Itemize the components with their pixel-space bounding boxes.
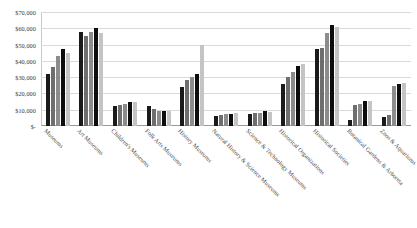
y-axis-tick-label: $40,000 xyxy=(15,57,36,64)
bar xyxy=(291,72,295,126)
bar xyxy=(248,114,252,126)
bar xyxy=(330,25,334,126)
bar xyxy=(387,115,391,126)
bar-group xyxy=(348,12,372,126)
bar xyxy=(315,49,319,126)
bar xyxy=(296,66,300,126)
bar xyxy=(190,77,194,126)
x-axis-tick-label: History Museums xyxy=(177,127,214,164)
bar xyxy=(348,120,352,127)
bar xyxy=(157,111,161,126)
bar xyxy=(195,74,199,126)
bar xyxy=(253,113,257,126)
bar xyxy=(219,115,223,126)
bar xyxy=(66,53,70,126)
bar xyxy=(180,87,184,126)
bar-group xyxy=(147,12,171,126)
bar xyxy=(167,111,171,126)
bar-group xyxy=(46,12,70,126)
x-axis-tick-label: Art Museums xyxy=(77,127,106,156)
y-axis-tick-label: $- xyxy=(31,123,36,130)
bar-group xyxy=(79,12,103,126)
bar xyxy=(392,86,396,126)
bar xyxy=(368,101,372,126)
bar xyxy=(301,64,305,126)
x-axis-tick-label: Science & Technology Museums xyxy=(245,127,309,191)
y-axis-tick-label: $30,000 xyxy=(15,74,36,81)
bar-group xyxy=(180,12,204,126)
bar xyxy=(89,32,93,126)
bar xyxy=(258,113,262,126)
bar-group xyxy=(315,12,339,126)
bar xyxy=(94,28,98,126)
x-axis-tick-label: Museums xyxy=(43,127,65,149)
bar-group xyxy=(382,12,406,126)
bar xyxy=(281,84,285,126)
bar xyxy=(113,106,117,126)
y-axis-tick-label: $20,000 xyxy=(15,90,36,97)
bar xyxy=(229,114,233,126)
bar xyxy=(325,33,329,126)
bar xyxy=(224,114,228,126)
bar xyxy=(123,104,127,126)
y-axis-tick-label: $70,000 xyxy=(15,9,36,16)
x-axis-tick-label: Natural History & Science Museums xyxy=(211,127,282,198)
bar xyxy=(320,48,324,126)
bar-group xyxy=(281,12,305,126)
bar xyxy=(214,116,218,126)
bar xyxy=(84,36,88,126)
x-axis-tick-label: Botanical Gardens & Arboreta xyxy=(346,127,405,186)
bar xyxy=(99,33,103,126)
bar xyxy=(335,27,339,126)
bar xyxy=(185,80,189,126)
bar xyxy=(200,45,204,126)
bar xyxy=(268,112,272,126)
y-axis-tick-label: $60,000 xyxy=(15,25,36,32)
bar xyxy=(286,77,290,126)
bar-group xyxy=(113,12,137,126)
bar xyxy=(46,74,50,126)
y-axis: $-$10,000$20,000$30,000$40,000$50,000$60… xyxy=(0,0,40,138)
x-axis-labels: MuseumsArt MuseumsChildren's MuseumsFolk… xyxy=(41,127,411,227)
bar-chart: $-$10,000$20,000$30,000$40,000$50,000$60… xyxy=(0,0,417,228)
plot-area xyxy=(41,12,411,126)
y-axis-tick-label: $10,000 xyxy=(15,106,36,113)
bar xyxy=(79,32,83,126)
y-axis-tick-label: $50,000 xyxy=(15,41,36,48)
bar xyxy=(56,56,60,126)
bar xyxy=(128,102,132,126)
bar xyxy=(402,83,406,126)
bar xyxy=(152,109,156,126)
bar xyxy=(51,67,55,126)
bar xyxy=(147,106,151,126)
bar-groups xyxy=(41,12,411,126)
bar xyxy=(382,117,386,126)
bar xyxy=(397,84,401,126)
bar xyxy=(363,101,367,126)
bar xyxy=(358,104,362,126)
bar-group xyxy=(248,12,272,126)
bar xyxy=(162,111,166,126)
bar xyxy=(263,111,267,126)
bar-group xyxy=(214,12,238,126)
bar xyxy=(234,113,238,126)
x-axis-tick-label: Historical Societies xyxy=(312,127,352,167)
bar xyxy=(118,105,122,126)
bar xyxy=(61,49,65,126)
bar xyxy=(133,102,137,126)
bar xyxy=(353,105,357,126)
